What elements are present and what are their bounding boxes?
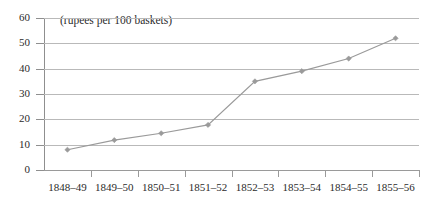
data-point-marker bbox=[112, 138, 117, 143]
data-point-marker bbox=[299, 69, 304, 74]
x-axis-label: 1852–53 bbox=[232, 182, 279, 193]
y-axis-label: 0 bbox=[4, 164, 30, 175]
x-axis-separator bbox=[91, 170, 92, 177]
data-point-marker bbox=[65, 147, 70, 152]
x-axis-label: 1849–50 bbox=[91, 182, 138, 193]
x-axis-label: 1850–51 bbox=[138, 182, 185, 193]
y-axis-tick bbox=[36, 170, 44, 171]
x-axis-separator bbox=[419, 170, 420, 177]
y-axis-label: 30 bbox=[4, 88, 30, 99]
y-axis-label: 50 bbox=[4, 37, 30, 48]
y-axis-tick bbox=[36, 43, 44, 44]
price-line-chart: (rupees per 100 baskets) 0102030405060 1… bbox=[0, 0, 431, 208]
y-axis-label: 20 bbox=[4, 113, 30, 124]
x-axis-separator bbox=[185, 170, 186, 177]
x-axis-label: 1851–52 bbox=[185, 182, 232, 193]
x-axis-separator bbox=[325, 170, 326, 177]
y-axis-tick bbox=[36, 69, 44, 70]
series-polyline bbox=[67, 38, 395, 149]
y-axis-tick bbox=[36, 94, 44, 95]
y-axis-label: 10 bbox=[4, 139, 30, 150]
x-axis-separator bbox=[278, 170, 279, 177]
data-point-marker bbox=[159, 131, 164, 136]
x-axis-separator bbox=[372, 170, 373, 177]
x-axis-label: 1855–56 bbox=[372, 182, 419, 193]
series-line bbox=[44, 18, 419, 170]
x-axis-label: 1848–49 bbox=[44, 182, 91, 193]
y-axis-tick bbox=[36, 119, 44, 120]
y-axis-label: 60 bbox=[4, 12, 30, 23]
x-axis-label: 1854–55 bbox=[325, 182, 372, 193]
plot-area bbox=[44, 18, 419, 170]
y-axis-tick bbox=[36, 145, 44, 146]
x-axis-separator bbox=[232, 170, 233, 177]
x-axis-label: 1853–54 bbox=[278, 182, 325, 193]
y-axis-label: 40 bbox=[4, 63, 30, 74]
data-point-marker bbox=[346, 56, 351, 61]
data-point-marker bbox=[393, 36, 398, 41]
x-axis-separator bbox=[138, 170, 139, 177]
y-axis-tick bbox=[36, 18, 44, 19]
